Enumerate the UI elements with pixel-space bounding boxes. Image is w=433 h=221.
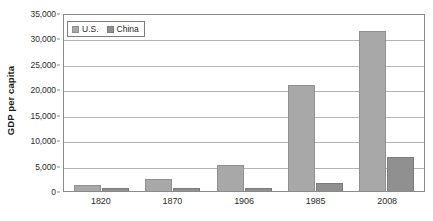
y-tick-label: 5,000 <box>35 162 56 172</box>
legend-label: China <box>117 24 139 34</box>
bar-china-1985 <box>316 183 343 191</box>
y-tick-label: 35,000 <box>31 9 56 19</box>
legend-label: U.S. <box>82 24 99 34</box>
bar-chart: GDP per capita 05,00010,00015,00020,0002… <box>0 0 433 221</box>
bar-group <box>280 15 351 191</box>
bar-us-1906 <box>217 165 244 191</box>
y-tick-label: 10,000 <box>31 136 56 146</box>
legend-swatch-icon <box>72 26 79 33</box>
legend-entry-us: U.S. <box>72 24 99 34</box>
x-tick-label: 1820 <box>65 196 137 206</box>
bar-groups <box>64 15 424 191</box>
bar-group <box>208 15 279 191</box>
x-axis-tick-labels: 18201870190619852008 <box>63 196 425 206</box>
bar-group <box>137 15 208 191</box>
legend-entry-china: China <box>107 24 139 34</box>
plot-area <box>63 14 425 192</box>
y-tick-mark <box>57 90 60 91</box>
x-tick-label: 2008 <box>351 196 423 206</box>
y-axis-title-text: GDP per capita <box>6 65 17 134</box>
bar-china-1906 <box>245 188 272 191</box>
y-tick-label: 25,000 <box>31 60 56 70</box>
y-axis-title: GDP per capita <box>0 0 22 200</box>
y-tick-label: 20,000 <box>31 85 56 95</box>
chart-legend: U.S.China <box>67 21 145 37</box>
y-tick-label: 30,000 <box>31 34 56 44</box>
y-tick-mark <box>57 115 60 116</box>
bar-china-1820 <box>102 188 129 191</box>
bar-us-1820 <box>74 185 101 191</box>
y-tick-mark <box>57 141 60 142</box>
y-tick-mark <box>57 166 60 167</box>
y-tick-label: 15,000 <box>31 111 56 121</box>
y-tick-mark <box>57 192 60 193</box>
bar-china-1870 <box>173 188 200 191</box>
bar-us-1870 <box>145 179 172 191</box>
legend-swatch-icon <box>107 26 114 33</box>
x-tick-label: 1870 <box>137 196 209 206</box>
bar-group <box>66 15 137 191</box>
bar-china-2008 <box>387 157 414 191</box>
y-tick-mark <box>57 39 60 40</box>
y-axis-tick-labels: 05,00010,00015,00020,00025,00030,00035,0… <box>20 8 60 194</box>
bar-us-1985 <box>288 85 315 191</box>
y-tick-mark <box>57 64 60 65</box>
y-tick-mark <box>57 14 60 15</box>
x-tick-label: 1906 <box>208 196 280 206</box>
bar-group <box>351 15 422 191</box>
x-tick-label: 1985 <box>280 196 352 206</box>
bar-us-2008 <box>359 31 386 191</box>
y-tick-label: 0 <box>51 187 56 197</box>
